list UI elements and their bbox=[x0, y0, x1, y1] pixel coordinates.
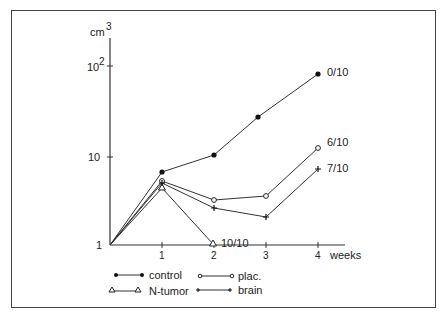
control-end-label: 0/10 bbox=[327, 66, 348, 78]
brain-end-label: 7/10 bbox=[327, 162, 348, 174]
legend-item-n-tumor: N-tumor bbox=[109, 285, 189, 297]
x-tick-label-4: 4 bbox=[315, 250, 321, 261]
y-tick-label-100-exp: 2 bbox=[99, 56, 105, 67]
legend-item-plac: plac. bbox=[198, 270, 261, 282]
series-control bbox=[110, 71, 321, 245]
legend-item-brain: brain bbox=[196, 284, 262, 296]
legend-item-control: control bbox=[114, 269, 182, 281]
y-tick-label-100: 10 bbox=[87, 61, 99, 73]
y-tick-label-1: 1 bbox=[96, 239, 102, 251]
ntumor-end-label: 10/10 bbox=[221, 237, 249, 249]
y-axis-unit: cm bbox=[90, 26, 105, 38]
plac-end-label: 6/10 bbox=[327, 136, 348, 148]
svg-text:brain: brain bbox=[238, 284, 262, 296]
x-tick-label-2: 2 bbox=[211, 250, 217, 261]
series-n-tumor bbox=[110, 184, 217, 246]
svg-text:plac.: plac. bbox=[238, 270, 261, 282]
svg-text:control: control bbox=[149, 269, 182, 281]
x-axis-label: weeks bbox=[329, 249, 362, 261]
x-tick-label-1: 1 bbox=[159, 250, 165, 261]
legend: control plac. N-tumor brain bbox=[109, 269, 262, 297]
chart: cm 3 10 2 10 1 1 2 3 4 weeks bbox=[0, 0, 447, 321]
y-axis-unit-exponent: 3 bbox=[106, 21, 112, 32]
y-tick-label-10: 10 bbox=[88, 151, 100, 163]
x-tick-label-3: 3 bbox=[263, 250, 269, 261]
svg-text:N-tumor: N-tumor bbox=[149, 285, 189, 297]
